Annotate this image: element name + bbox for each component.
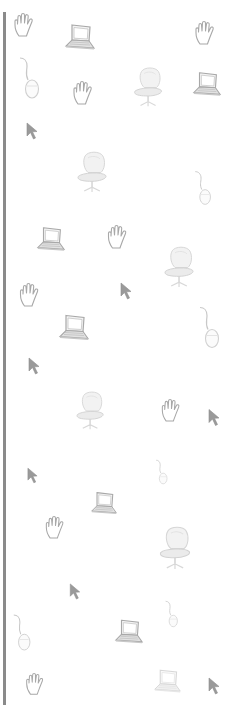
hand-icon xyxy=(24,672,46,696)
cursor-icon xyxy=(69,583,81,600)
hand-icon xyxy=(72,80,94,106)
chair-icon xyxy=(163,245,197,290)
chair-icon xyxy=(133,65,165,110)
background-pattern xyxy=(0,0,238,705)
laptop-icon xyxy=(36,224,66,256)
mouse-icon xyxy=(142,459,182,485)
laptop-icon xyxy=(114,617,144,648)
chair-icon xyxy=(158,525,194,572)
hand-icon xyxy=(159,398,183,423)
laptop-icon xyxy=(58,312,90,345)
mouse-icon xyxy=(187,170,220,206)
left-border-rule xyxy=(3,12,6,705)
laptop-icon xyxy=(90,488,118,520)
laptop-icon xyxy=(64,22,96,54)
laptop-icon xyxy=(153,667,182,697)
cursor-icon xyxy=(208,677,220,695)
hand-icon xyxy=(13,12,35,38)
cursor-icon xyxy=(27,467,38,484)
mouse-icon xyxy=(198,305,222,350)
hand-icon xyxy=(106,224,129,250)
hand-icon xyxy=(18,282,41,308)
cursor-icon xyxy=(26,122,38,140)
chair-icon xyxy=(75,390,107,432)
chair-icon xyxy=(74,150,112,195)
hand-icon xyxy=(44,515,66,540)
mouse-icon xyxy=(152,600,192,628)
laptop-icon xyxy=(192,70,222,100)
cursor-icon xyxy=(120,282,132,300)
hand-icon xyxy=(194,20,216,46)
mouse-icon xyxy=(18,56,42,100)
cursor-icon xyxy=(28,357,40,375)
cursor-icon xyxy=(208,408,220,427)
mouse-icon xyxy=(12,612,33,653)
